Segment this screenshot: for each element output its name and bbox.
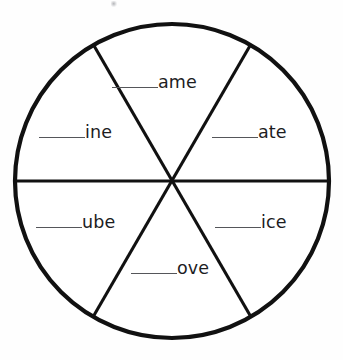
word-family-wheel [0, 0, 343, 360]
worksheet-page: ame ate ice ove ube ine [0, 0, 343, 360]
